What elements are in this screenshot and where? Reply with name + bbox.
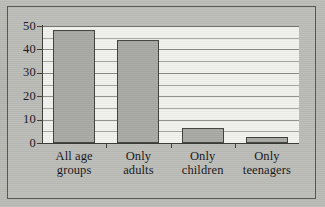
bar-2 [117,40,159,143]
x-axis-label-line: groups [42,164,106,178]
plot-area [42,26,299,143]
y-axis-label-10: 10 [0,113,36,126]
gridline-major [42,26,299,27]
figure-root: 01020304050All agegroupsOnlyadultsOnlych… [0,0,325,207]
y-axis-label-40: 40 [0,43,36,56]
y-axis-label-30: 30 [0,66,36,79]
x-tick [106,143,107,148]
y-tick [37,73,43,74]
figure-frame: 01020304050All agegroupsOnlyadultsOnlych… [7,6,316,199]
bar-3 [182,128,224,143]
y-tick [37,26,43,27]
x-axis-label-line: Only [235,150,299,164]
x-tick [171,143,172,148]
x-axis-label-4: Onlyteenagers [235,150,299,177]
y-axis-label-0: 0 [0,137,36,150]
x-axis-label-2: Onlyadults [106,150,170,177]
y-tick [37,49,43,50]
x-axis-label-line: Only [106,150,170,164]
y-tick [37,143,43,144]
x-tick [235,143,236,148]
plot-inner [42,26,299,143]
x-axis-label-line: children [171,164,235,178]
x-axis-label-3: Onlychildren [171,150,235,177]
x-axis-label-line: All age [42,150,106,164]
x-axis-label-1: All agegroups [42,150,106,177]
bar-1 [53,30,95,143]
x-axis-label-line: teenagers [235,164,299,178]
y-axis [42,25,43,144]
bar-chart: 01020304050All agegroupsOnlyadultsOnlych… [8,7,317,200]
x-axis-label-line: Only [171,150,235,164]
y-axis-label-50: 50 [0,20,36,33]
y-axis-label-20: 20 [0,90,36,103]
x-axis-label-line: adults [106,164,170,178]
y-tick [37,120,43,121]
y-tick [37,96,43,97]
